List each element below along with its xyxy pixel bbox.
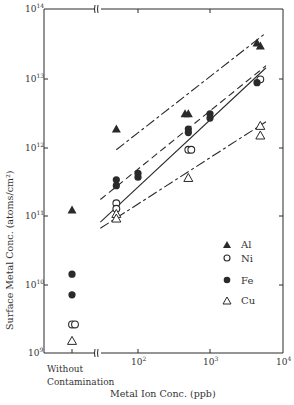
filled-circle-icon — [185, 129, 192, 136]
x-tick-1e2: 102 — [131, 355, 146, 367]
fit-line-fe — [100, 66, 266, 200]
filled-circle-icon — [224, 277, 231, 284]
x-axis-title: Metal Ion Conc. (ppb) — [110, 388, 216, 399]
fit-lines — [100, 33, 266, 228]
legend-item-fe: Fe — [224, 275, 254, 286]
legend-item-cu: Cu — [223, 295, 256, 306]
filled-triangle-icon — [223, 241, 231, 248]
svg-text:Fe: Fe — [241, 275, 253, 286]
y-tick-1e10: 1010 — [25, 278, 44, 290]
filled-circle-icon — [206, 114, 213, 121]
x-tick-without-line2: Contamination — [47, 377, 115, 387]
fit-line-ni — [100, 68, 266, 222]
open-circle-icon — [72, 321, 79, 328]
filled-circle-icon — [68, 291, 75, 298]
filled-circle-icon — [253, 79, 260, 86]
x-tick-1e4: 104 — [276, 355, 291, 367]
y-tick-1e9: 109 — [28, 346, 43, 358]
open-circle-icon — [188, 146, 195, 153]
fit-line-cu — [100, 122, 266, 229]
open-triangle-icon — [68, 336, 77, 344]
open-circle-icon — [224, 255, 230, 261]
svg-text:Al: Al — [240, 239, 251, 250]
legend-item-ni: Ni — [224, 253, 253, 264]
filled-circle-icon — [68, 271, 75, 278]
chart: 1014 1013 1012 1011 1010 109 Without Con… — [0, 0, 294, 405]
y-tick-1e14: 1014 — [25, 2, 44, 14]
y-tick-1e11: 1011 — [25, 209, 44, 221]
svg-text:Ni: Ni — [241, 253, 253, 264]
data-markers — [68, 39, 265, 345]
y-tick-1e13: 1013 — [25, 72, 44, 84]
filled-triangle-icon — [112, 125, 121, 133]
svg-text:Cu: Cu — [241, 295, 256, 306]
open-triangle-icon — [256, 121, 265, 129]
legend: Al Ni Fe Cu — [223, 239, 256, 306]
x-tick-labels: Without Contamination 102 103 104 — [47, 355, 291, 387]
y-tick-1e12: 1012 — [25, 141, 44, 153]
open-triangle-icon — [223, 297, 231, 304]
x-tick-without-line1: Without — [47, 364, 84, 374]
filled-circle-icon — [113, 182, 120, 189]
legend-item-al: Al — [223, 239, 251, 250]
filled-circle-icon — [134, 174, 141, 181]
x-axis-break-icon — [95, 5, 99, 357]
filled-triangle-icon — [68, 205, 77, 213]
y-axis-title: Surface Metal Conc. (atoms/cm²) — [4, 170, 15, 330]
open-triangle-icon — [184, 173, 193, 181]
open-triangle-icon — [256, 131, 265, 139]
y-tick-labels: 1014 1013 1012 1011 1010 109 — [25, 2, 44, 358]
x-tick-1e3: 103 — [203, 355, 218, 367]
